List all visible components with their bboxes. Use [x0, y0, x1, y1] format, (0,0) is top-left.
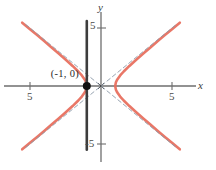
graph-figure: x y 5 5 5 -5 (-1, 0) [0, 0, 216, 170]
y-tick-label-5: 5 [90, 19, 96, 31]
y-tick-label-neg5: -5 [85, 137, 94, 149]
x-tick-label-neg5: 5 [27, 90, 33, 102]
vertex-point-label: (-1, 0) [51, 68, 79, 79]
vertex-point [83, 82, 91, 90]
x-axis-label: x [198, 79, 203, 91]
x-tick-label-5: 5 [169, 90, 175, 102]
plot-canvas [0, 0, 216, 170]
y-axis-label: y [98, 1, 103, 13]
